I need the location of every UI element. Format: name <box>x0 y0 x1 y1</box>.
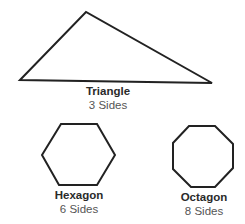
octagon-label: Octagon 8 Sides <box>154 192 245 217</box>
hexagon-label: Hexagon 6 Sides <box>29 190 129 215</box>
triangle-name: Triangle <box>58 86 158 98</box>
octagon-sides: 8 Sides <box>154 206 245 218</box>
triangle-shape <box>20 12 212 83</box>
octagon-name: Octagon <box>154 192 245 204</box>
triangle-sides: 3 Sides <box>58 100 158 112</box>
hexagon-sides: 6 Sides <box>29 204 129 216</box>
octagon-shape <box>173 126 233 187</box>
hexagon-name: Hexagon <box>29 190 129 202</box>
triangle-label: Triangle 3 Sides <box>58 86 158 111</box>
hexagon-shape <box>42 124 115 185</box>
